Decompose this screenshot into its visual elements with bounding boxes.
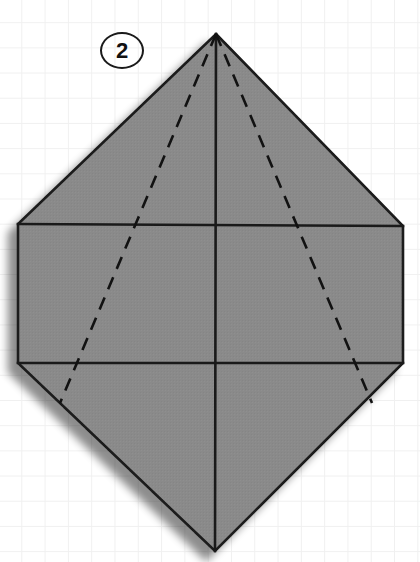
vertical-center-line — [215, 34, 216, 551]
paper-hexagon — [18, 34, 403, 551]
diagram-canvas: 2 — [0, 0, 420, 562]
origami-figure — [0, 0, 420, 562]
step-number-badge: 2 — [100, 32, 144, 69]
step-number-label: 2 — [116, 40, 128, 62]
